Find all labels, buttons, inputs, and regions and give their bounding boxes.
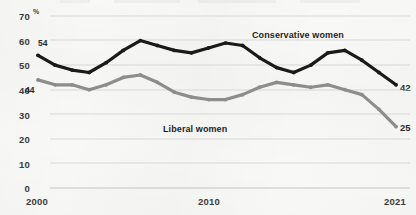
- data-point: [309, 63, 313, 67]
- plot-area: [0, 0, 416, 215]
- data-point: [207, 98, 211, 102]
- data-point: [172, 49, 176, 53]
- data-point: [138, 39, 142, 43]
- data-point: [190, 95, 194, 99]
- data-point: [207, 46, 211, 50]
- data-point: [70, 68, 74, 72]
- data-point: [292, 71, 296, 75]
- data-point: [394, 83, 398, 87]
- data-point: [138, 73, 142, 77]
- data-point: [343, 49, 347, 53]
- data-point: [360, 58, 364, 62]
- data-point: [87, 88, 91, 92]
- data-point: [70, 83, 74, 87]
- data-point: [53, 83, 57, 87]
- data-point: [292, 83, 296, 87]
- data-point: [241, 44, 245, 48]
- data-point: [394, 125, 398, 129]
- data-point: [53, 63, 57, 67]
- data-point: [309, 85, 313, 89]
- chart-container: 70 % 60 50 40 30 20 10 0 2000 2010 2021 …: [0, 0, 416, 215]
- data-point: [258, 56, 262, 60]
- data-point: [36, 53, 40, 57]
- data-point: [36, 78, 40, 82]
- series-liberal-women: [36, 73, 398, 128]
- data-point: [241, 93, 245, 97]
- data-point: [190, 51, 194, 55]
- data-point: [343, 88, 347, 92]
- data-point: [275, 80, 279, 84]
- data-point: [104, 83, 108, 87]
- data-point: [172, 90, 176, 94]
- data-point: [224, 41, 228, 45]
- data-point: [326, 83, 330, 87]
- data-point: [326, 51, 330, 55]
- data-point: [155, 80, 159, 84]
- data-point: [275, 66, 279, 70]
- data-point: [360, 93, 364, 97]
- data-point: [87, 71, 91, 75]
- data-point: [224, 98, 228, 102]
- data-point: [377, 107, 381, 111]
- data-point: [377, 71, 381, 75]
- gridlines: [50, 16, 410, 188]
- data-point: [155, 44, 159, 48]
- chart-svg: [0, 0, 416, 215]
- series-conservative-women: [36, 39, 398, 87]
- data-point: [258, 85, 262, 89]
- data-point: [121, 76, 125, 80]
- data-point: [104, 61, 108, 65]
- data-point: [121, 49, 125, 53]
